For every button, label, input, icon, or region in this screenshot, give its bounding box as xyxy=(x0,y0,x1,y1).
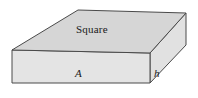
geometry-figure: Square A h xyxy=(0,0,198,98)
rectangular-slab-drawing xyxy=(0,0,198,98)
front-face-polygon xyxy=(12,50,150,83)
